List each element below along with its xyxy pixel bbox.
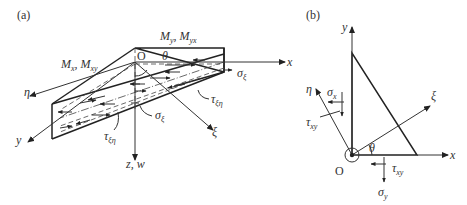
sigma-bottom-leader xyxy=(140,106,152,116)
z-axis-label: z, w xyxy=(125,157,145,171)
tau-xieta-bottom-label: τξη xyxy=(104,129,116,145)
moments-mx-label: Mx, Mxy xyxy=(60,57,98,73)
figure-canvas: (a) xyxy=(0,0,467,205)
panel-a: (a) xyxy=(15,8,293,171)
tau-xieta-right-label: τξη xyxy=(211,92,223,108)
theta-label: θ xyxy=(162,49,168,63)
x-axis-label: x xyxy=(286,55,293,69)
origin-b-label: O xyxy=(335,164,344,178)
right-bottom-edge xyxy=(175,72,224,86)
triangle xyxy=(352,53,417,155)
moments-my-label: My, Myx xyxy=(159,29,197,45)
top-edge xyxy=(135,48,224,72)
panel-b-label: (b) xyxy=(306,8,320,22)
origin-label: O xyxy=(137,49,146,63)
origin-dot xyxy=(350,153,354,157)
y-axis xyxy=(28,62,135,142)
panel-a-label: (a) xyxy=(17,8,30,22)
tau-xy-bottom-label: τxy xyxy=(392,161,404,177)
eta-axis-b-label: η xyxy=(306,82,312,96)
tau-right-leader xyxy=(198,90,209,99)
sigma-x-label: σx xyxy=(327,85,337,101)
x-axis-b-label: x xyxy=(449,148,456,162)
y-axis-b-label: y xyxy=(341,20,348,34)
sigma-y-label: σy xyxy=(378,185,388,201)
front-bottom-edge xyxy=(52,72,224,139)
panel-b: (b) y x ξ η O θ σx τxy τxy σy xyxy=(306,8,456,201)
xi-axis-label: ξ xyxy=(212,125,218,139)
tau-xy-left-label: τxy xyxy=(306,115,318,131)
sigma-xi-right-label: σξ xyxy=(237,66,247,82)
theta-b-label: θ xyxy=(369,141,375,155)
tau-xy-left-leader xyxy=(320,111,340,117)
xi-axis-b-label: ξ xyxy=(431,89,437,103)
y-axis-label: y xyxy=(15,133,22,147)
sigma-xi-bottom-label: σξ xyxy=(155,108,165,124)
eta-axis-label: η xyxy=(24,85,30,99)
